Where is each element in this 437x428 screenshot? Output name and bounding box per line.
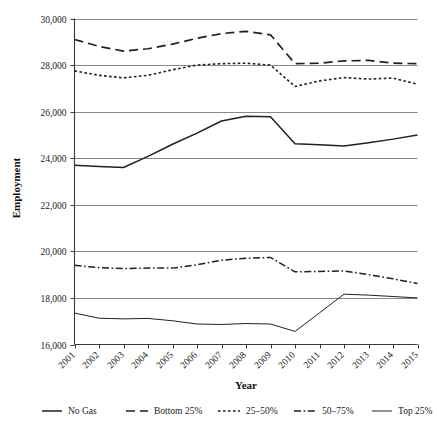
y-tick-label: 18,000 — [40, 294, 66, 304]
x-tick-labels-group: 2001200220032004200520062007200820092010… — [56, 350, 420, 371]
x-tick-label: 2012 — [325, 350, 346, 371]
y-tick-marks-group — [71, 20, 75, 346]
x-tick-label: 2009 — [252, 350, 273, 371]
series-line-top-25 — [75, 294, 418, 331]
x-tick-label: 2006 — [178, 350, 199, 371]
y-tick-label: 30,000 — [40, 15, 66, 25]
legend-label: Top 25% — [398, 406, 433, 416]
employment-line-chart: 16,00018,00020,00022,00024,00026,00028,0… — [0, 0, 437, 428]
y-tick-label: 20,000 — [40, 247, 66, 257]
x-tick-label: 2007 — [203, 350, 224, 371]
legend-label: 50–75% — [322, 406, 354, 416]
legend-label: 25–50% — [246, 406, 278, 416]
x-tick-label: 2008 — [227, 350, 248, 371]
legend: No GasBottom 25%25–50%50–75%Top 25% — [42, 406, 433, 416]
data-series-group — [75, 31, 418, 331]
y-tick-labels-group: 16,00018,00020,00022,00024,00026,00028,0… — [40, 15, 66, 351]
legend-label: No Gas — [68, 406, 97, 416]
legend-label: Bottom 25% — [154, 406, 202, 416]
series-line-25-50 — [75, 63, 418, 86]
series-line-bottom-25 — [75, 31, 418, 63]
x-tick-marks-group — [76, 345, 419, 349]
y-tick-label: 16,000 — [40, 341, 66, 351]
x-tick-label: 2003 — [105, 350, 126, 371]
series-line-no-gas — [75, 116, 418, 167]
x-tick-label: 2002 — [80, 350, 101, 371]
x-axis-title: Year — [235, 379, 257, 391]
gridlines-group — [75, 20, 418, 299]
x-tick-label: 2005 — [154, 350, 175, 371]
x-tick-label: 2015 — [399, 350, 420, 371]
x-tick-label: 2011 — [302, 350, 322, 370]
x-tick-label: 2004 — [129, 350, 150, 371]
y-tick-label: 24,000 — [40, 154, 66, 164]
y-tick-label: 28,000 — [40, 61, 66, 71]
y-axis-title: Employment — [10, 157, 22, 218]
x-tick-label: 2001 — [56, 350, 77, 371]
y-tick-label: 26,000 — [40, 108, 66, 118]
chart-canvas: 16,00018,00020,00022,00024,00026,00028,0… — [0, 0, 437, 428]
series-line-50-75 — [75, 257, 418, 283]
y-tick-label: 22,000 — [40, 201, 66, 211]
x-tick-label: 2014 — [374, 350, 395, 371]
x-tick-label: 2013 — [350, 350, 371, 371]
x-tick-label: 2010 — [276, 350, 297, 371]
